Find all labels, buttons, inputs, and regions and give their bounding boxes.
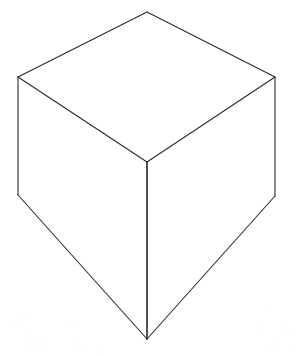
cube-illustration xyxy=(0,0,296,356)
drawing-canvas xyxy=(0,0,296,356)
